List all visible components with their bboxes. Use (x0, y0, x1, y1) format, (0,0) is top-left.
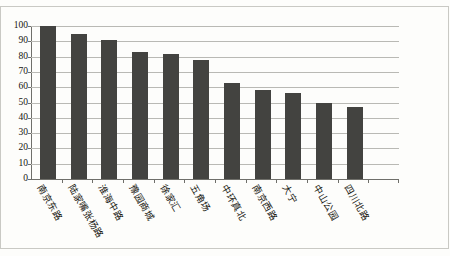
x-tick-label: 四川北路 (342, 183, 371, 223)
x-tick-label: 豫园商城 (127, 183, 156, 223)
x-tick-label: 中山公园 (311, 183, 340, 223)
y-tick-label: 20 (2, 143, 28, 152)
x-tick-label: 大宁 (281, 183, 300, 205)
x-tick-label: 南京西路 (250, 183, 279, 223)
bar (101, 40, 117, 179)
bar (285, 93, 301, 179)
y-tick-label: 40 (2, 113, 28, 122)
bar (163, 54, 179, 179)
x-tick-label: 南京东路 (35, 183, 64, 223)
y-tick-label: 30 (2, 128, 28, 137)
chart-frame: 1009080706050403020100 南京东路陆家嘴张杨路淮海中路豫园商… (0, 6, 449, 249)
y-tick-label: 10 (2, 159, 28, 168)
y-tick-label: 100 (2, 21, 28, 30)
y-tick-label: 70 (2, 67, 28, 76)
y-tick-label: 80 (2, 52, 28, 61)
y-tick-label: 90 (2, 36, 28, 45)
bar (347, 107, 363, 179)
bar (193, 60, 209, 179)
y-tick-label: 60 (2, 82, 28, 91)
gridline (31, 26, 399, 27)
bar (71, 34, 87, 179)
bar (224, 83, 240, 179)
x-axis-labels: 南京东路陆家嘴张杨路淮海中路豫园商城徐家汇五角场中环真北南京西路大宁中山公园四川… (31, 183, 399, 256)
bar (316, 103, 332, 180)
y-axis-labels: 1009080706050403020100 (1, 26, 28, 179)
x-tick-label: 五角场 (189, 183, 213, 214)
plot-area (31, 26, 399, 179)
x-tick-label: 淮海中路 (97, 183, 126, 223)
y-tick-label: 0 (2, 174, 28, 183)
bar (40, 26, 56, 179)
x-tick-label: 中环真北 (219, 183, 248, 223)
x-tick-label: 徐家汇 (158, 183, 182, 214)
bar (255, 90, 271, 179)
y-tick-label: 50 (2, 98, 28, 107)
bar (132, 52, 148, 179)
